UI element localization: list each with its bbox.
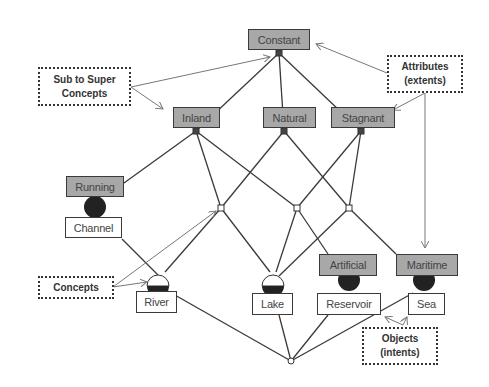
- attribute-natural: Natural: [263, 107, 316, 128]
- annotation-attributes-extents: Attributes (extents): [387, 55, 463, 93]
- annotation-line: Concepts: [62, 87, 108, 101]
- annotation-objects-intents: Objects (intents): [362, 327, 438, 365]
- attribute-inland: Inland: [173, 107, 220, 128]
- attribute-running: Running: [66, 176, 124, 197]
- annotation-line: (intents): [380, 346, 419, 360]
- concept-lattice-diagram: Constant Inland Natural Stagnant Running…: [0, 0, 489, 387]
- object-reservoir: Reservoir: [317, 293, 381, 315]
- annotation-sub-to-super-concepts: Sub to Super Concepts: [38, 67, 131, 106]
- object-river: River: [136, 291, 177, 313]
- object-channel: Channel: [65, 217, 122, 238]
- attribute-artificial: Artificial: [319, 254, 377, 276]
- object-sea: Sea: [408, 293, 445, 315]
- attribute-constant: Constant: [248, 29, 310, 50]
- attribute-maritime: Maritime: [396, 254, 458, 276]
- full-concept-circles: [84, 196, 435, 291]
- annotation-concepts: Concepts: [38, 276, 114, 299]
- annotation-line: (extents): [404, 74, 446, 88]
- annotation-line: Concepts: [53, 281, 99, 295]
- annotation-line: Sub to Super: [53, 73, 115, 87]
- object-lake: Lake: [252, 293, 293, 315]
- annotation-line: Attributes: [401, 60, 448, 74]
- attribute-stagnant: Stagnant: [331, 107, 395, 128]
- concept-nodes: [193, 50, 364, 364]
- annotation-line: Objects: [382, 332, 419, 346]
